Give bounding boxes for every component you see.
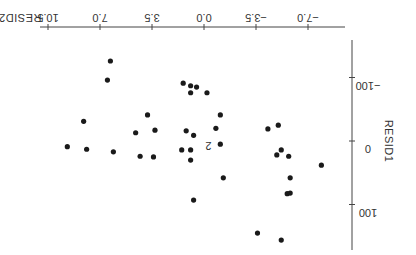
point-count-label: 2 <box>205 140 211 152</box>
y-tick-label: 0 <box>365 143 371 155</box>
data-point <box>288 175 293 180</box>
data-point <box>286 154 291 159</box>
y-axis: −1000100 RESID1 <box>349 40 395 250</box>
data-point <box>204 90 209 95</box>
data-point <box>218 142 223 147</box>
x-tick-label: 0.0 <box>196 12 211 24</box>
data-point <box>105 77 110 82</box>
data-point <box>179 147 184 152</box>
x-axis: −7.0−3.50.03.57.010.5 RESID2 <box>0 12 345 30</box>
data-point <box>194 84 199 89</box>
data-point <box>255 230 260 235</box>
data-point <box>184 128 189 133</box>
data-point <box>288 190 293 195</box>
x-tick-label: −3.5 <box>245 12 267 24</box>
data-point <box>84 147 89 152</box>
data-point <box>188 83 193 88</box>
data-point <box>65 144 70 149</box>
y-tick-label: −100 <box>356 80 381 92</box>
data-point <box>111 149 116 154</box>
data-point <box>152 128 157 133</box>
data-point <box>191 133 196 138</box>
data-point <box>213 126 218 131</box>
data-point <box>181 81 186 86</box>
data-points <box>65 58 324 242</box>
y-tick-label: 100 <box>359 207 377 219</box>
data-point <box>279 237 284 242</box>
data-point <box>133 130 138 135</box>
x-tick-label: 3.5 <box>144 12 159 24</box>
x-tick-label: 7.0 <box>92 12 107 24</box>
x-tick-label: −7.0 <box>297 12 319 24</box>
data-point <box>265 126 270 131</box>
annotations: 2 <box>205 140 211 152</box>
data-point <box>188 157 193 162</box>
data-point <box>191 197 196 202</box>
x-axis-title: RESID2 <box>0 12 41 24</box>
data-point <box>188 90 193 95</box>
data-point <box>218 112 223 117</box>
y-axis-title: RESID1 <box>383 120 395 163</box>
data-point <box>188 147 193 152</box>
data-point <box>108 58 113 63</box>
data-point <box>138 154 143 159</box>
data-point <box>145 112 150 117</box>
data-point <box>221 175 226 180</box>
data-point <box>276 123 281 128</box>
data-point <box>319 163 324 168</box>
data-point <box>279 147 284 152</box>
data-point <box>151 154 156 159</box>
data-point <box>274 152 279 157</box>
data-point <box>81 119 86 124</box>
scatter-plot: −7.0−3.50.03.57.010.5 RESID2 −1000100 RE… <box>0 0 416 255</box>
